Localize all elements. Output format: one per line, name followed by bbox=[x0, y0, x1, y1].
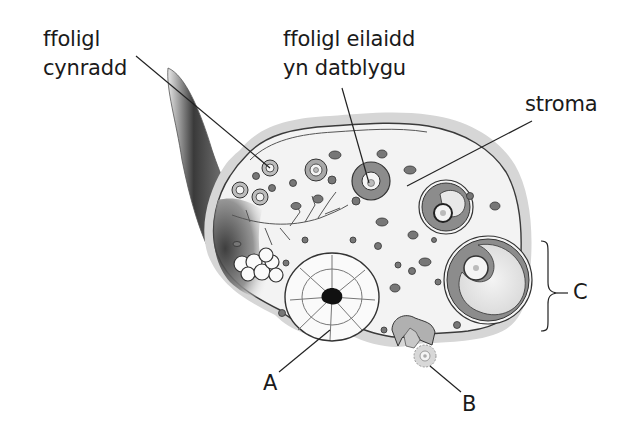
brace-C bbox=[541, 241, 557, 331]
label-secondary-follicle-line1: ffoligl eilaidd bbox=[283, 26, 415, 53]
label-secondary-follicle-line2: yn datblygu bbox=[283, 55, 406, 82]
tertiary-follicle bbox=[419, 180, 473, 234]
corpus-luteum bbox=[285, 253, 379, 341]
label-C: C bbox=[573, 279, 587, 306]
label-primary-follicle-line1: ffoligl bbox=[43, 26, 100, 53]
secondary-follicle bbox=[352, 162, 390, 200]
label-B: B bbox=[462, 391, 476, 418]
graafian-follicle bbox=[444, 236, 532, 324]
label-primary-follicle-line2: cynradd bbox=[43, 55, 127, 82]
released-oocyte bbox=[414, 345, 436, 367]
leader-B bbox=[430, 366, 461, 392]
leader-A bbox=[279, 330, 330, 372]
label-stroma: stroma bbox=[525, 91, 597, 118]
label-A: A bbox=[263, 370, 277, 397]
